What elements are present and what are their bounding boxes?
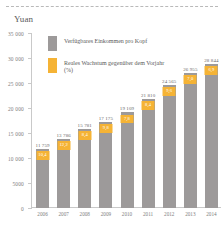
bar-value-label: 28 844	[204, 58, 218, 63]
y-axis-unit-label: Yuan	[14, 14, 33, 24]
bar-growth-badge[interactable]: 7,8	[121, 115, 134, 124]
bar-value-label: 15 781	[78, 123, 92, 128]
bar-income[interactable]	[121, 112, 134, 208]
bar-group[interactable]: 10,411 7592006	[36, 149, 49, 208]
chart-page: Yuan 35 00030 00025 00020 00015 00010 00…	[0, 0, 224, 237]
y-axis-tick-label: 30 000	[8, 56, 24, 62]
y-axis-tick-label: 20 000	[8, 106, 24, 112]
legend-swatch-growth-icon	[48, 58, 57, 73]
bar-group[interactable]: 8,415 7812008	[78, 129, 91, 208]
bar-income[interactable]	[78, 129, 91, 208]
bar-growth-badge[interactable]: 9,8	[99, 124, 112, 133]
bar-growth-badge[interactable]: 7,0	[184, 75, 197, 84]
bar-income[interactable]	[99, 122, 112, 208]
x-axis-tick-label: 2007	[58, 211, 68, 217]
chart-legend: Verfügbares Einkommen pro Kopf Reales Wa…	[48, 36, 172, 82]
bar-value-label: 13 786	[56, 133, 70, 138]
bar-income[interactable]	[142, 99, 155, 208]
bar-growth-badge[interactable]: 10,4	[36, 151, 49, 160]
bar-group[interactable]: 9,624 5652012	[163, 85, 176, 208]
bar-growth-badge[interactable]: 6,9	[205, 66, 218, 75]
bar-income[interactable]	[184, 73, 197, 208]
legend-item-growth: Reales Wachstum gegenüber dem Vorjahr (%…	[48, 58, 172, 75]
legend-swatch-income-icon	[48, 36, 57, 51]
y-axis-tick-label: 25 000	[8, 81, 24, 87]
bar-group[interactable]: 12,213 7862007	[57, 139, 70, 208]
bar-growth-badge[interactable]: 12,2	[57, 141, 70, 150]
top-dashed-rule	[6, 6, 218, 7]
x-axis-tick-label: 2009	[101, 211, 111, 217]
bar-value-label: 11 759	[35, 143, 49, 148]
x-axis-tick-label: 2014	[206, 211, 216, 217]
bar-value-label: 21 810	[141, 93, 155, 98]
bar-group[interactable]: 7,026 9552013	[184, 73, 197, 208]
bar-growth-badge[interactable]: 8,4	[142, 101, 155, 110]
x-axis-tick-label: 2013	[185, 211, 195, 217]
y-axis-tick-label: 15 000	[8, 131, 24, 137]
bar-group[interactable]: 7,819 1092010	[121, 112, 134, 208]
bar-income[interactable]	[205, 64, 218, 208]
bar-value-label: 17 175	[99, 116, 113, 121]
x-axis-tick-label: 2006	[37, 211, 47, 217]
bar-growth-badge[interactable]: 9,6	[163, 87, 176, 96]
bar-group[interactable]: 6,928 8442014	[205, 64, 218, 208]
y-axis-tick-label: 0	[21, 206, 24, 212]
bar-group[interactable]: 8,421 8102011	[142, 99, 155, 208]
y-axis-tick: 0	[28, 208, 32, 209]
x-axis-tick-label: 2012	[164, 211, 174, 217]
x-axis-tick-label: 2008	[80, 211, 90, 217]
bar-growth-badge[interactable]: 8,4	[78, 131, 91, 140]
bar-group[interactable]: 9,817 1752009	[99, 122, 112, 208]
x-axis-tick-label: 2011	[143, 211, 153, 217]
y-axis-tick-label: 35 000	[8, 31, 24, 37]
x-axis-tick-label: 2010	[122, 211, 132, 217]
legend-label-income: Verfügbares Einkommen pro Kopf	[64, 36, 147, 45]
legend-label-growth: Reales Wachstum gegenüber dem Vorjahr (%…	[64, 58, 172, 75]
legend-item-income: Verfügbares Einkommen pro Kopf	[48, 36, 172, 51]
y-axis-tick-label: 5000	[12, 181, 24, 187]
bar-income[interactable]	[163, 85, 176, 208]
y-axis-tick-label: 10 000	[8, 156, 24, 162]
bar-value-label: 19 109	[120, 106, 134, 111]
bar-value-label: 26 955	[183, 67, 197, 72]
